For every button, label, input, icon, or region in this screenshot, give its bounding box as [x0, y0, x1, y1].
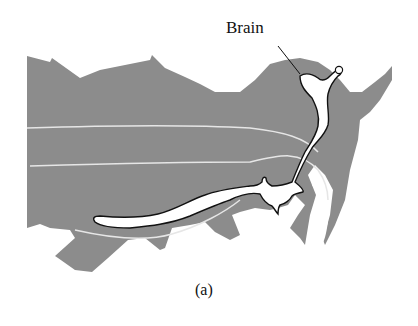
brain-bulb: [335, 66, 342, 73]
tissue-body: [27, 55, 392, 272]
brain-annotation-label: Brain: [226, 18, 264, 38]
tissue-section-illustration: [0, 0, 418, 326]
figure-caption: (a): [195, 281, 213, 299]
embryo-cross-section-figure: Brain (a): [0, 0, 418, 326]
